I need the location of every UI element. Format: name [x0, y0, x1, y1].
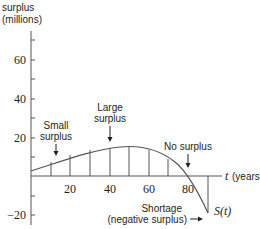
surplus-diagram: surplus (millions) 60 40 20 −20 20 40 60…	[0, 0, 260, 229]
arrow-down-icon	[54, 144, 59, 156]
annotation-small-line1: Small	[43, 120, 68, 131]
x-tick-60: 60	[143, 182, 155, 196]
y-tick-40: 40	[14, 92, 26, 106]
curve-label: S(t)	[214, 204, 231, 218]
annotation-shortage-line1: Shortage	[141, 203, 182, 214]
annotation-shortage-line2: (negative surplus)	[108, 214, 187, 225]
y-tick-neg20: −20	[7, 208, 26, 222]
y-axis-label-line2: (millions)	[2, 14, 42, 25]
annotation-large-line1: Large	[97, 102, 123, 113]
y-tick-20: 20	[14, 131, 26, 145]
x-axis-unit: (years)	[232, 171, 260, 182]
annotation-small-line2: surplus	[40, 131, 72, 142]
y-ticks	[31, 40, 35, 215]
annotation-no-surplus: No surplus	[164, 141, 212, 152]
arrow-right-icon	[190, 217, 203, 222]
y-tick-60: 60	[14, 53, 26, 67]
annotation-large-line2: surplus	[94, 113, 126, 124]
x-tick-40: 40	[104, 182, 116, 196]
arrow-down-icon	[108, 126, 113, 142]
x-tick-20: 20	[64, 182, 76, 196]
y-axis-label-line1: surplus	[2, 2, 34, 13]
x-axis-var: t	[225, 169, 229, 183]
arrow-down-icon	[186, 154, 191, 168]
